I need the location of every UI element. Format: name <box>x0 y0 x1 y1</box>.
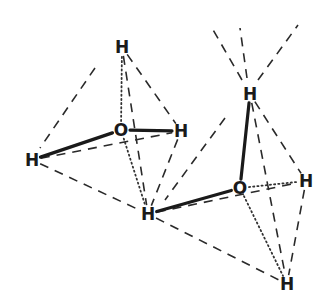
hydrogen-atom: H <box>243 84 257 104</box>
hydrogen-bond <box>121 56 122 121</box>
atom-label: O <box>233 178 247 198</box>
extension-line <box>212 28 242 80</box>
atoms: HOHHHHOHH <box>25 37 313 294</box>
extension-line <box>40 68 95 148</box>
tetrahedron-edge <box>151 139 177 205</box>
covalent-bond <box>241 103 249 179</box>
atom-label: O <box>114 120 128 140</box>
hydrogen-atom: H <box>115 37 129 57</box>
tetrahedron-edge <box>156 218 279 280</box>
atom-label: H <box>299 171 313 191</box>
hydrogen-atom: H <box>141 204 155 224</box>
covalent-bonds <box>41 103 250 212</box>
oxygen-atom: O <box>114 120 128 140</box>
atom-label: H <box>115 37 129 57</box>
extension-lines <box>40 25 298 200</box>
water-dimer-diagram: HOHHHHOHH <box>0 0 333 306</box>
hydrogen-atom: H <box>280 274 294 294</box>
extension-line <box>240 28 247 78</box>
tetrahedron-edges <box>40 54 304 280</box>
covalent-bond <box>41 133 113 157</box>
covalent-bond <box>157 190 232 211</box>
tetrahedron-edge <box>157 183 297 212</box>
atom-label: H <box>280 274 294 294</box>
hydrogen-atom: H <box>25 150 39 170</box>
hydrogen-atom: H <box>174 121 188 141</box>
tetrahedron-edge <box>255 102 301 174</box>
atom-label: H <box>141 204 155 224</box>
oxygen-atom: O <box>233 178 247 198</box>
tetrahedron-edge <box>127 54 176 123</box>
atom-label: H <box>25 150 39 170</box>
hydrogen-atom: H <box>299 171 313 191</box>
tetrahedron-edge <box>289 190 305 275</box>
hydrogen-bonds <box>121 56 297 276</box>
tetrahedron-edge <box>40 164 140 210</box>
atom-label: H <box>174 121 188 141</box>
extension-line <box>258 25 298 80</box>
covalent-bond <box>130 130 172 131</box>
atom-label: H <box>243 84 257 104</box>
